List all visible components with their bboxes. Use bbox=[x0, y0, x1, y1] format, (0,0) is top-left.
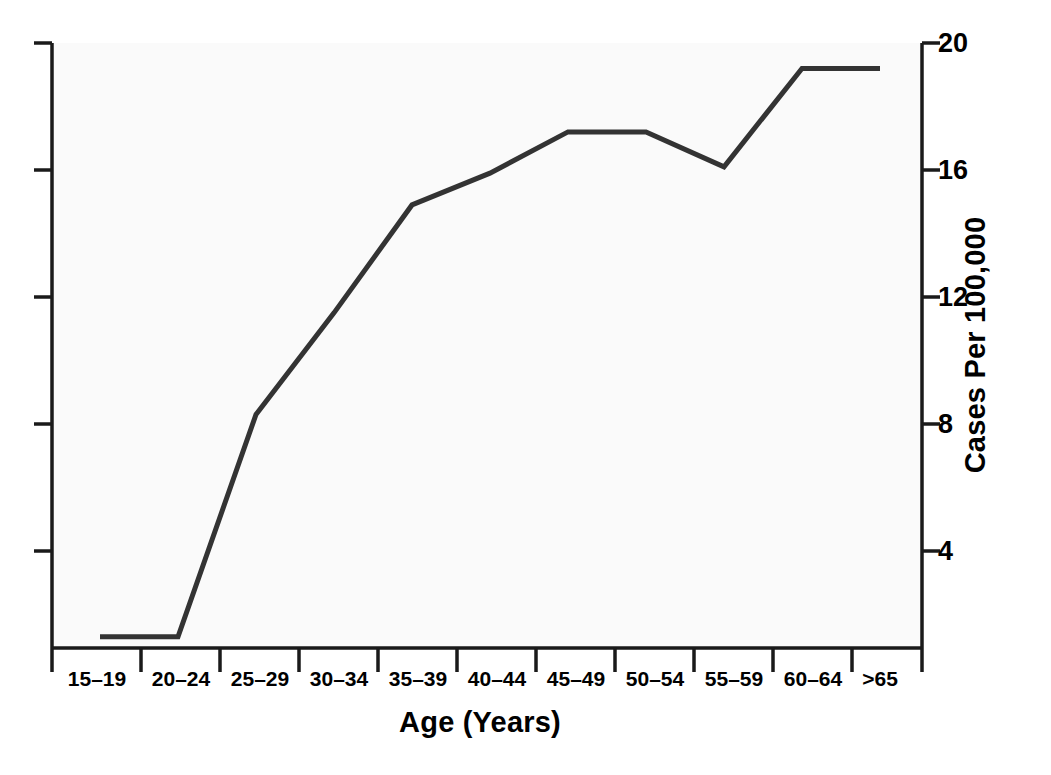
x-tick-label-15-19: 15–19 bbox=[68, 668, 126, 689]
x-tick-label-40-44: 40–44 bbox=[468, 668, 526, 689]
data-series-line bbox=[100, 68, 880, 636]
plot-svg bbox=[0, 0, 1051, 775]
x-tick-label-35-39: 35–39 bbox=[389, 668, 447, 689]
x-tick-label-50-54: 50–54 bbox=[626, 668, 684, 689]
chart-figure: 20 16 12 8 4 Cases Per 100,000 15–19 20–… bbox=[0, 0, 1051, 775]
x-tick-label-25-29: 25–29 bbox=[231, 668, 289, 689]
x-tick-label-30-34: 30–34 bbox=[310, 668, 368, 689]
y-tick-label-20: 20 bbox=[938, 30, 968, 57]
x-tick-label-20-24: 20–24 bbox=[152, 668, 210, 689]
y-tick-label-8: 8 bbox=[938, 411, 953, 438]
x-tick-label-60-64: 60–64 bbox=[784, 668, 842, 689]
x-tick-label-over-65: >65 bbox=[862, 668, 898, 689]
y-axis-title: Cases Per 100,000 bbox=[959, 217, 992, 474]
left-axis-ticks bbox=[34, 43, 52, 551]
y-tick-label-16: 16 bbox=[938, 157, 968, 184]
x-tick-label-55-59: 55–59 bbox=[705, 668, 763, 689]
x-axis-title: Age (Years) bbox=[0, 706, 960, 739]
x-tick-label-45-49: 45–49 bbox=[547, 668, 605, 689]
y-tick-label-4: 4 bbox=[938, 538, 953, 565]
